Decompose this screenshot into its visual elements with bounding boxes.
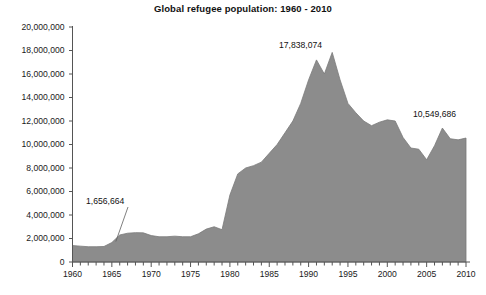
y-axis-tick-label: 20,000,000 — [0, 22, 65, 32]
y-axis-tick-label: 6,000,000 — [0, 186, 65, 196]
y-axis-tick-label: 10,000,000 — [0, 139, 65, 149]
area-series-refugee-population — [73, 52, 467, 262]
y-axis-tick-label: 8,000,000 — [0, 163, 65, 173]
data-point-annotation: 17,838,074 — [279, 40, 322, 50]
y-axis-tick-label: 16,000,000 — [0, 69, 65, 79]
y-axis-tick-label: 12,000,000 — [0, 116, 65, 126]
y-axis-tick-label: 18,000,000 — [0, 45, 65, 55]
x-axis-tick-label: 2010 — [441, 269, 486, 279]
y-axis-tick-label: 0 — [0, 257, 65, 267]
chart-plot-area — [0, 0, 486, 295]
chart-container: Global refugee population: 1960 - 2010 0… — [0, 0, 486, 295]
y-axis-tick-label: 2,000,000 — [0, 233, 65, 243]
y-axis-tick-label: 4,000,000 — [0, 210, 65, 220]
data-point-annotation: 1,656,664 — [86, 196, 124, 206]
y-axis-tick-label: 14,000,000 — [0, 92, 65, 102]
data-point-annotation: 10,549,686 — [413, 109, 456, 119]
